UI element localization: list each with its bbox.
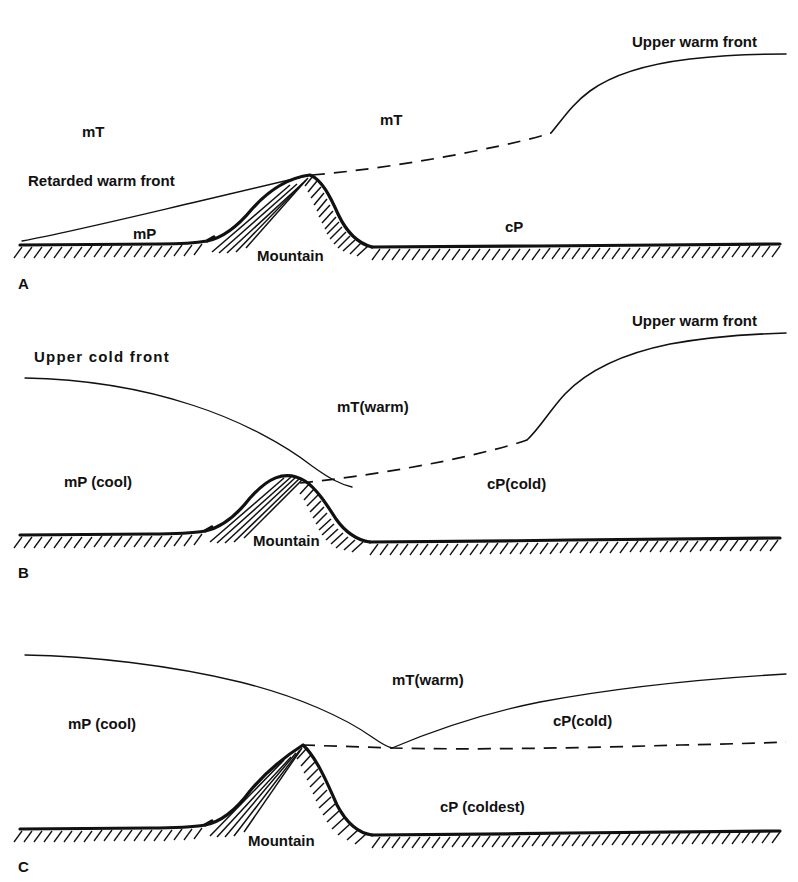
label-mountain-a: Mountain [257, 247, 324, 264]
paper-background [0, 0, 798, 882]
label-mp-a: mP [133, 225, 156, 242]
label-cp-a: cP [505, 218, 523, 235]
label-cp-cold-b: cP(cold) [487, 475, 546, 492]
label-mountain-b: Mountain [253, 532, 320, 549]
label-mp-cool-b: mP (cool) [64, 473, 132, 490]
label-upper-warm-front-a: Upper warm front [632, 33, 757, 50]
panel-letter-c: C [18, 858, 29, 875]
panel-letter-a: A [18, 275, 29, 292]
label-mountain-c: Mountain [248, 832, 315, 849]
label-mt-warm-c: mT(warm) [392, 671, 464, 688]
label-mp-cool-c: mP (cool) [68, 715, 136, 732]
label-cp-coldest-c: cP (coldest) [440, 798, 525, 815]
label-mt-warm-b: mT(warm) [337, 398, 409, 415]
panel-letter-b: B [18, 564, 29, 581]
frontal-cross-section-diagram: Upper warm front mT mT Retarded warm fro… [0, 0, 798, 882]
label-cp-cold-c: cP(cold) [553, 712, 612, 729]
label-mt-upper-left-a: mT [82, 123, 105, 140]
label-retarded-warm-front-a: Retarded warm front [28, 172, 175, 189]
label-mt-upper-mid-a: mT [380, 111, 403, 128]
label-upper-warm-front-b: Upper warm front [632, 312, 757, 329]
label-upper-cold-front-b: Upper cold front [34, 348, 170, 365]
